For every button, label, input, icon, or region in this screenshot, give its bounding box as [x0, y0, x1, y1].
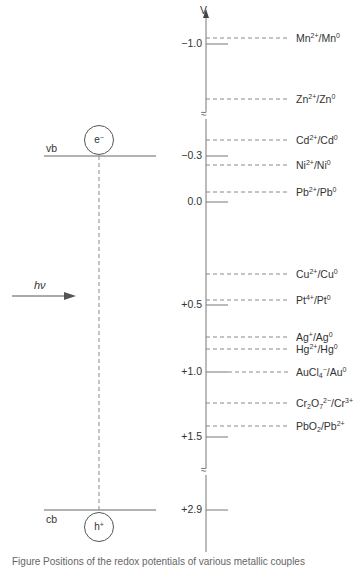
couple-mn: Mn2+/Mn0 [296, 33, 340, 44]
tick-label: +1.5 [162, 431, 202, 442]
tick-label: +2.9 [162, 504, 202, 515]
axis-break-lower: ≈ [201, 464, 207, 475]
tick-label: −0.3 [162, 150, 202, 161]
figure-caption: Figure Positions of the redox potentials… [12, 556, 305, 567]
axis-break-upper: ≈ [201, 108, 207, 119]
photon-label: hν [34, 279, 46, 291]
couple-pt: Pt4+/Pt0 [296, 295, 331, 306]
couple-ni: Ni2+/Ni0 [296, 160, 331, 171]
couple-cu: Cu2+/Cu0 [296, 269, 338, 280]
couple-zn: Zn2+/Zn0 [296, 94, 335, 105]
couple-pbo2: PbO2/Pb2+ [296, 421, 345, 432]
axis-label: V [200, 4, 207, 16]
couple-au: AuCl4−/Au0 [296, 367, 346, 378]
tick-label: +1.0 [162, 366, 202, 377]
couple-pb: Pb2+/Pb0 [296, 187, 337, 198]
conduction-band-label: cb [46, 514, 57, 525]
tick-label: 0.0 [162, 196, 202, 207]
couple-ag: Ag+/Ag0 [296, 332, 333, 343]
tick-label: −1.0 [162, 38, 202, 49]
photon-arrow-icon [12, 292, 76, 300]
electron-icon: e− [84, 125, 114, 155]
couple-cr: Cr2O72−/Cr3+ [296, 398, 353, 409]
couple-hg: Hg2+/Hg0 [296, 344, 338, 355]
hole-icon: h+ [84, 512, 114, 542]
tick-label: +0.5 [162, 299, 202, 310]
couple-cd: Cd2+/Cd0 [296, 135, 338, 146]
valence-band-label: vb [46, 143, 57, 154]
